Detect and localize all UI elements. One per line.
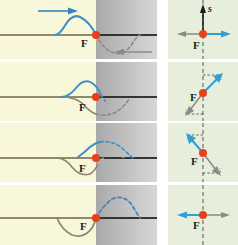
boundary-point-1 bbox=[92, 31, 100, 39]
string-panel-4: F bbox=[0, 185, 157, 245]
blue-velocity-vector-1 bbox=[203, 31, 231, 38]
boundary-point-vector-3 bbox=[199, 149, 207, 157]
blue-velocity-vector-2 bbox=[203, 73, 223, 93]
vector-drawing-4 bbox=[168, 185, 238, 245]
vector-panel-1: s F bbox=[168, 0, 238, 59]
s-axis-arrow-1 bbox=[200, 4, 206, 33]
boundary-label-vector-1: F bbox=[193, 40, 200, 51]
boundary-label-vector-4: F bbox=[193, 220, 200, 231]
vector-panel-2: F bbox=[168, 62, 238, 121]
frame-row-1: F s F bbox=[0, 0, 238, 59]
string-panel-3: F bbox=[0, 123, 157, 182]
wave-reflection-figure: F s F bbox=[0, 0, 238, 245]
reflected-pulse-dashed-3 bbox=[98, 155, 125, 164]
vector-panel-4: F bbox=[168, 185, 238, 245]
reflected-pulse-solid-3 bbox=[58, 158, 98, 175]
vector-drawing-3 bbox=[168, 123, 238, 182]
boundary-point-vector-1 bbox=[199, 30, 207, 38]
frame-row-4: F F bbox=[0, 185, 238, 245]
s-axis-label-1: s bbox=[208, 4, 212, 14]
boundary-label-4: F bbox=[80, 221, 87, 232]
reflected-pulse-dashed-2 bbox=[96, 98, 130, 115]
boundary-point-2 bbox=[92, 93, 100, 101]
boundary-label-3: F bbox=[79, 163, 86, 174]
boundary-point-vector-2 bbox=[199, 89, 207, 97]
vector-drawing-2 bbox=[168, 62, 238, 121]
string-drawing-1 bbox=[0, 0, 157, 59]
incident-direction-arrow-1 bbox=[38, 8, 78, 15]
boundary-point-3 bbox=[92, 154, 100, 162]
string-drawing-4 bbox=[0, 185, 157, 245]
string-panel-1: F bbox=[0, 0, 157, 59]
boundary-label-1: F bbox=[81, 38, 88, 49]
boundary-label-vector-3: F bbox=[191, 156, 198, 167]
boundary-point-vector-4 bbox=[199, 211, 207, 219]
boundary-label-vector-2: F bbox=[190, 92, 197, 103]
transmitted-pulse-4 bbox=[96, 197, 140, 218]
vector-panel-3: F bbox=[168, 123, 238, 182]
reflected-pulse-4 bbox=[57, 218, 96, 236]
string-panel-2: F bbox=[0, 62, 157, 121]
gray-velocity-vector-4 bbox=[203, 212, 230, 218]
vector-drawing-1 bbox=[168, 0, 238, 59]
boundary-point-4 bbox=[92, 214, 100, 222]
boundary-label-2: F bbox=[79, 102, 86, 113]
frame-row-3: F F bbox=[0, 123, 238, 182]
incident-pulse-1 bbox=[55, 16, 96, 35]
frame-row-2: F F bbox=[0, 62, 238, 121]
